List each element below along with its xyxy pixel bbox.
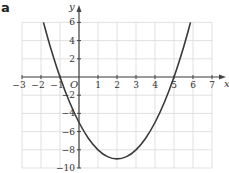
x-tick-label: −3 [12,80,26,90]
x-tick-label: 1 [95,80,101,90]
y-tick-label: 6 [69,17,75,27]
y-tick-label: 4 [69,36,75,46]
y-tick-label: −6 [62,127,76,137]
grid-lines [22,22,212,168]
x-tick-label: 4 [152,80,158,90]
x-tick-label: 3 [133,80,139,90]
y-axis-arrow-icon [77,5,82,12]
x-axis-label: x [224,78,229,89]
origin-label: O [70,79,78,90]
x-tick-label: 2 [114,80,120,90]
y-tick-label: 2 [69,54,75,64]
x-tick-label: 7 [209,80,215,90]
y-axis-label: y [68,1,75,12]
parabola-chart: −3−2−11234567642−2−4−6−8−10Oxy [0,0,229,173]
x-tick-label: −2 [31,80,44,90]
y-tick-label: −10 [56,163,75,173]
x-tick-label: 6 [190,80,196,90]
y-tick-label: −8 [62,145,76,155]
